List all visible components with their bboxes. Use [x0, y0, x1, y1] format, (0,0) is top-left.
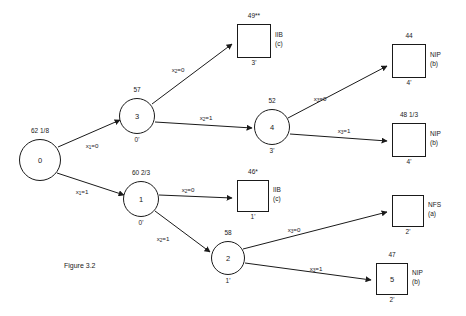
leaf-47-status-code: NIP	[412, 269, 423, 278]
leaf-49-status-code: IIB	[275, 31, 283, 40]
node-4-time-label: 3'	[270, 148, 275, 155]
node-0[interactable]: 0	[19, 139, 61, 181]
node-3-time-label: 0'	[135, 137, 140, 144]
leaf-47[interactable]: 5	[376, 263, 408, 295]
leaf-46-status-note: (c)	[273, 195, 281, 204]
leaf-44-status-code: NIP	[430, 51, 441, 60]
leaf-44-time-label: 4'	[407, 80, 412, 87]
edge-0-1	[57, 173, 124, 195]
leaf-48-1-3-bound-label: 48 1/3	[400, 112, 418, 119]
node-3[interactable]: 3	[119, 98, 155, 134]
leaf-46-time-label: 1'	[251, 214, 256, 221]
edge-0-1-label: x1=1	[76, 188, 89, 195]
edge-4-44	[288, 66, 387, 118]
leaf-47-bound-label: 47	[388, 252, 395, 259]
edge-2-nfs	[243, 212, 387, 249]
edge-4-44-label: x3=0	[314, 95, 327, 102]
leaf-48-1-3-status-note: (b)	[430, 139, 441, 148]
node-2-bound-label: 58	[224, 230, 231, 237]
leaf-49[interactable]	[237, 24, 271, 58]
edge-4-48-label: x3=1	[338, 127, 351, 134]
leaf-48-1-3-status-code: NIP	[430, 130, 441, 139]
figure-canvas: 062 1/83570'160 2/30'4523'2581' 49**3'II…	[0, 0, 466, 316]
leaf-nfs-status-label: NFS(a)	[428, 201, 441, 219]
edge-2-nfs-label: x3=0	[288, 226, 301, 233]
edge-0-3-label: x1=0	[86, 142, 99, 149]
node-0-bound-label: 62 1/8	[31, 128, 49, 135]
leaf-44-status-note: (b)	[430, 60, 441, 69]
leaf-48-1-3-time-label: 4'	[407, 159, 412, 166]
node-4[interactable]: 4	[254, 109, 290, 145]
figure-caption: Figure 3.2	[64, 262, 96, 269]
leaf-nfs-status-note: (a)	[428, 210, 441, 219]
leaf-44-status-label: NIP(b)	[430, 51, 441, 69]
edge-1-2-label: x2=1	[157, 235, 170, 242]
edge-1-2	[155, 211, 210, 252]
node-1[interactable]: 1	[123, 181, 159, 217]
leaf-46-status-label: IIB(c)	[273, 186, 281, 204]
leaf-nfs-time-label: 2'	[406, 229, 411, 236]
leaf-47-status-label: NIP(b)	[412, 269, 423, 287]
leaf-44[interactable]	[392, 44, 426, 78]
edge-1-46-label: x2=0	[182, 186, 195, 193]
leaf-nfs[interactable]	[392, 195, 424, 227]
node-3-bound-label: 57	[133, 87, 140, 94]
leaf-nfs-status-code: NFS	[428, 201, 441, 210]
node-1-time-label: 0'	[139, 220, 144, 227]
edge-1-46	[159, 195, 232, 198]
leaf-48-1-3[interactable]	[392, 123, 426, 157]
node-2-time-label: 1'	[226, 278, 231, 285]
leaf-49-time-label: 3'	[252, 60, 257, 67]
leaf-49-bound-label: 49**	[248, 13, 260, 20]
node-4-bound-label: 52	[268, 98, 275, 105]
node-2[interactable]: 2	[211, 241, 245, 275]
leaf-49-status-note: (c)	[275, 40, 283, 49]
edge-3-49	[152, 44, 232, 104]
leaf-46-bound-label: 46*	[248, 169, 258, 176]
leaf-47-status-note: (b)	[412, 278, 423, 287]
leaf-46-status-code: IIB	[273, 186, 281, 195]
leaf-46[interactable]	[237, 180, 269, 212]
leaf-49-status-label: IIB(c)	[275, 31, 283, 49]
node-1-bound-label: 60 2/3	[132, 170, 150, 177]
edge-3-4-label: x2=1	[200, 114, 213, 121]
edge-2-47-label: x3=1	[310, 265, 323, 272]
leaf-47-time-label: 2'	[390, 297, 395, 304]
edge-3-4	[155, 122, 252, 128]
leaf-44-bound-label: 44	[405, 33, 412, 40]
edge-3-49-label: x2=0	[172, 66, 185, 73]
edge-4-48	[290, 134, 387, 141]
edge-2-47	[245, 263, 371, 280]
leaf-48-1-3-status-label: NIP(b)	[430, 130, 441, 148]
